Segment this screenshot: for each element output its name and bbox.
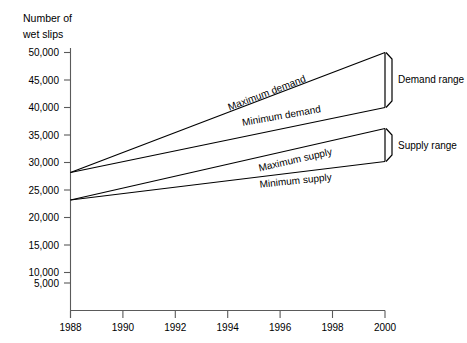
demand-band xyxy=(71,53,386,173)
supply-range-annotation: Supply range xyxy=(386,129,457,162)
y-tick-label: 15,000 xyxy=(28,240,59,251)
wet-slips-line-chart: Number of wet slips 50,000 45,000 40,000… xyxy=(0,0,467,343)
supply-range-label: Supply range xyxy=(398,140,457,151)
demand-range-annotation: Demand range xyxy=(386,53,465,108)
y-axis-title-line-1: Number of xyxy=(23,12,72,24)
y-axis-ticks: 50,000 45,000 40,000 35,000 30,000 25,00… xyxy=(28,47,70,289)
x-tick-label: 1998 xyxy=(321,322,344,333)
x-tick-label: 1996 xyxy=(269,322,292,333)
minimum-supply-line xyxy=(71,162,386,201)
demand-range-label: Demand range xyxy=(398,74,465,85)
minimum-demand-line xyxy=(71,108,386,173)
y-tick-label: 40,000 xyxy=(28,102,59,113)
chart-container: Number of wet slips 50,000 45,000 40,000… xyxy=(0,0,467,343)
y-axis-title-line-2: wet slips xyxy=(22,28,63,40)
minimum-supply-label: Minimum supply xyxy=(259,171,332,189)
y-tick-label: 45,000 xyxy=(28,75,59,86)
y-tick-label: 35,000 xyxy=(28,130,59,141)
x-axis-ticks: 1988 1990 1992 1994 1996 1998 2000 xyxy=(59,311,396,334)
y-tick-label: 30,000 xyxy=(28,157,59,168)
demand-range-brace xyxy=(386,53,392,108)
y-tick-label: 25,000 xyxy=(28,185,59,196)
supply-range-brace xyxy=(386,129,392,162)
supply-band xyxy=(71,129,386,201)
x-tick-label: 1994 xyxy=(217,322,240,333)
x-tick-label: 2000 xyxy=(374,322,397,333)
y-tick-label: 50,000 xyxy=(28,47,59,58)
x-tick-label: 1992 xyxy=(164,322,187,333)
x-tick-label: 1990 xyxy=(112,322,135,333)
y-tick-label: 5,000 xyxy=(34,278,59,289)
minimum-demand-label: Minimum demand xyxy=(241,103,321,128)
y-tick-label: 20,000 xyxy=(28,212,59,223)
x-tick-label: 1988 xyxy=(59,322,82,333)
maximum-demand-line xyxy=(71,53,386,173)
maximum-supply-line xyxy=(71,129,386,201)
y-tick-label: 10,000 xyxy=(28,267,59,278)
